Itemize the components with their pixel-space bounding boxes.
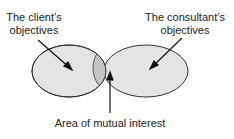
intersection-label: Area of mutual interest [40,117,180,130]
consultant-label: The consultant’s objectives [140,11,230,37]
client-label: The client’s objectives [3,11,65,37]
consultant-set [104,45,188,97]
